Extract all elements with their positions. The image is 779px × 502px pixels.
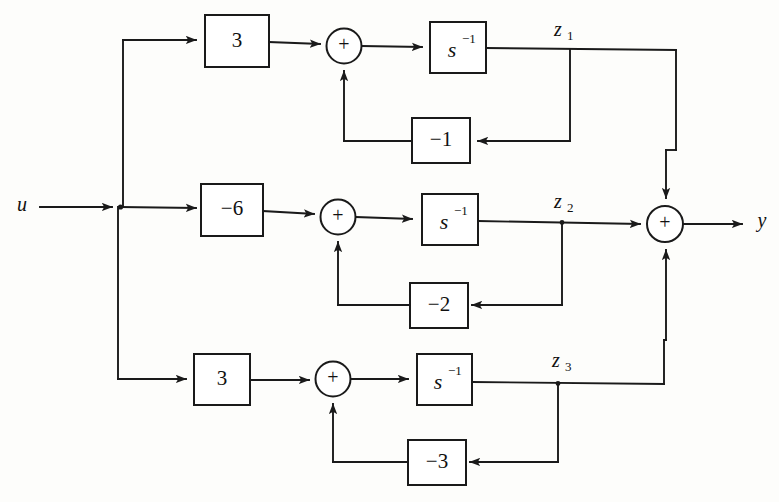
wire-integrator3-right [472, 382, 664, 384]
integrator-channel3-exponent: −1 [448, 363, 462, 378]
integrator-channel2-exponent: −1 [454, 203, 468, 218]
integrator-block-channel1 [430, 22, 486, 73]
wire-summer1-to-integrator1 [362, 46, 422, 47]
state-subscript-z1: 1 [567, 28, 574, 43]
feedback-block-channel3-label: −3 [426, 449, 448, 473]
block-diagram-figure: u 3 + s −1 z 1 −1 [0, 0, 779, 502]
integrator-channel2-base: s [440, 209, 449, 234]
feedback-block-channel2-label: −2 [428, 292, 450, 316]
feedback-block-channel1-label: −1 [430, 127, 452, 151]
junction-dot-z3 [556, 381, 561, 386]
integrator-channel1-base: s [448, 37, 457, 62]
wire-integrator2-to-output-summer [478, 221, 640, 224]
state-subscript-z2: 2 [567, 200, 574, 215]
wire-gain1-to-summer1 [269, 42, 320, 44]
gain-block-channel3-label: 3 [217, 366, 228, 390]
summer-channel2-sign: + [332, 204, 343, 226]
wire-integrator1-to-output [486, 48, 676, 50]
integrator-block-channel2 [422, 194, 478, 245]
integrator-channel1-exponent: −1 [462, 31, 476, 46]
summer-channel3-sign: + [327, 366, 338, 388]
wire-u-to-gain2 [120, 207, 196, 208]
integrator-block-channel3 [417, 354, 472, 405]
output-label-y: y [756, 209, 767, 232]
state-label-z1: z [553, 18, 562, 40]
output-summer-sign: + [659, 211, 670, 233]
gain-block-channel1-label: 3 [232, 28, 243, 52]
diagram-canvas: u 3 + s −1 z 1 −1 [0, 0, 779, 502]
junction-dot-z2 [560, 220, 565, 225]
wire-gain2-to-summer2 [263, 211, 314, 214]
wire-summer2-to-integrator2 [356, 217, 412, 219]
state-label-z2: z [553, 190, 562, 212]
summer-channel1-sign: + [338, 33, 349, 55]
state-subscript-z3: 3 [565, 359, 572, 374]
state-label-z3: z [551, 349, 560, 371]
input-label-u: u [17, 193, 27, 215]
integrator-channel3-base: s [434, 369, 443, 394]
gain-block-channel2-label: −6 [221, 196, 243, 220]
